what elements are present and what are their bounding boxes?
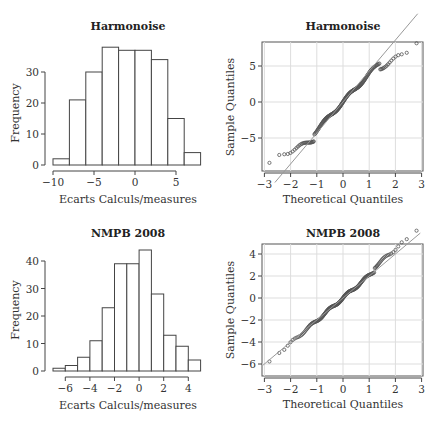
histogram-bar [176, 346, 188, 371]
x-tick-label: −2 [107, 382, 122, 394]
y-axis-label: Sample Quantiles [224, 57, 237, 156]
histogram-bar [119, 50, 135, 165]
histogram-bar [102, 308, 114, 371]
y-tick-label: 30 [26, 283, 39, 295]
qqplot-harmonoise: Harmonoise −3−2−10123−505 Theoretical Qu… [224, 14, 425, 206]
y-tick-label: 40 [26, 255, 39, 267]
x-tick-label: 1 [366, 178, 373, 190]
histogram-bar [168, 119, 184, 166]
x-tick-label: 2 [392, 178, 399, 190]
chart-title: Harmonoise [91, 20, 166, 33]
x-tick-label: −1 [309, 383, 324, 395]
histogram-bar [78, 357, 90, 371]
y-axis-label: Frequency [9, 279, 22, 339]
y-tick-label: 10 [26, 338, 39, 350]
y-tick-label: 0 [249, 292, 256, 304]
figure: Harmonoise 0102030−10−505 Ecarts Calculs… [0, 0, 439, 428]
x-tick-label: 5 [173, 176, 180, 188]
x-tick-label: −4 [82, 382, 98, 394]
x-tick-label: 0 [136, 382, 143, 394]
y-tick-label: 2 [249, 270, 256, 282]
y-tick-label: 10 [26, 128, 39, 140]
histogram-bar [69, 100, 85, 165]
x-axis-label: Theoretical Quantiles [283, 398, 404, 411]
histogram-bar [86, 72, 102, 165]
y-tick-label: 20 [26, 310, 39, 322]
x-tick-label: −2 [283, 178, 298, 190]
x-tick-label: −3 [257, 383, 272, 395]
histogram-bar [127, 264, 139, 371]
x-tick-label: −10 [42, 176, 64, 188]
x-axis-label: Ecarts Calculs/measures [59, 399, 197, 412]
y-tick-label: 5 [249, 60, 256, 72]
x-tick-label: 4 [185, 382, 192, 394]
histogram-bar [90, 341, 102, 371]
x-tick-label: −2 [283, 383, 298, 395]
y-tick-label: 0 [32, 365, 39, 377]
y-tick-label: −5 [241, 132, 256, 144]
y-tick-label: 20 [26, 97, 39, 109]
y-axis-label: Sample Quantiles [224, 260, 237, 359]
histogram-bar [102, 47, 118, 165]
histogram-bar [53, 159, 69, 165]
x-tick-label: 0 [340, 178, 347, 190]
histogram-bar [53, 368, 65, 371]
x-tick-label: −6 [58, 382, 74, 394]
histogram-bar [115, 264, 127, 371]
x-tick-label: −3 [257, 178, 272, 190]
histogram-bar [188, 360, 200, 371]
histogram-nmpb-2008: NMPB 2008 010203040−6−4−2024 Ecarts Calc… [9, 227, 201, 412]
histogram-bar [184, 153, 200, 165]
y-tick-label: 0 [32, 159, 39, 171]
histogram-harmonoise: Harmonoise 0102030−10−505 Ecarts Calculs… [9, 20, 201, 206]
y-axis-label: Frequency [9, 82, 22, 142]
histogram-bar [164, 335, 176, 371]
x-tick-label: 0 [132, 176, 139, 188]
x-tick-label: 3 [418, 178, 425, 190]
chart-title: Harmonoise [306, 20, 381, 33]
data-point [405, 238, 408, 241]
chart-title: NMPB 2008 [306, 227, 381, 240]
y-tick-label: 0 [249, 96, 256, 108]
x-tick-label: 0 [340, 383, 347, 395]
y-tick-label: −4 [241, 336, 257, 348]
x-axis-label: Ecarts Calculs/measures [59, 193, 197, 206]
chart-title: NMPB 2008 [91, 227, 166, 240]
y-tick-label: 30 [26, 66, 39, 78]
x-tick-label: −5 [86, 176, 101, 188]
histogram-bar [139, 250, 151, 371]
data-point [400, 241, 403, 244]
histogram-bar [151, 60, 167, 165]
histogram-bar [65, 366, 77, 372]
x-tick-label: 1 [366, 383, 373, 395]
x-tick-label: 2 [160, 382, 167, 394]
qqplot-nmpb-2008: NMPB 2008 −3−2−10123−6−4−2024 Theoretica… [224, 227, 425, 411]
y-tick-label: −6 [241, 358, 257, 370]
x-tick-label: 3 [418, 383, 425, 395]
x-tick-label: −1 [309, 178, 324, 190]
histogram-bar [151, 294, 163, 371]
data-point [415, 229, 418, 232]
y-tick-label: 4 [249, 248, 256, 260]
y-tick-label: −2 [241, 314, 256, 326]
histogram-bar [135, 50, 151, 165]
x-axis-label: Theoretical Quantiles [283, 193, 404, 206]
x-tick-label: 2 [392, 383, 399, 395]
